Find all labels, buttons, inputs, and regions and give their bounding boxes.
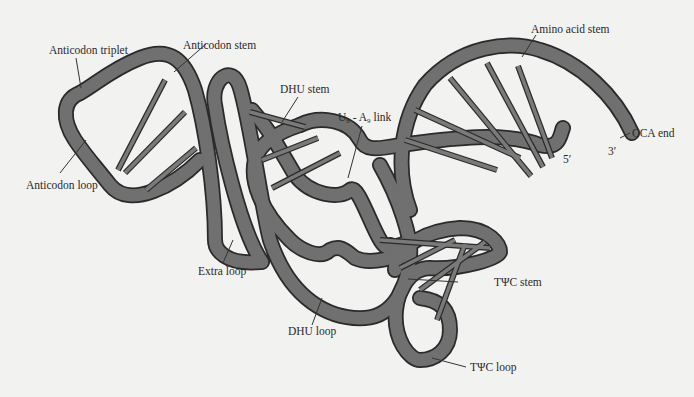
label-anticodon-loop: Anticodon loop [26, 180, 98, 192]
label-five-prime: 5′ [563, 154, 571, 166]
label-three-prime: 3′ [608, 146, 616, 158]
link-text: link [371, 111, 392, 123]
label-tpsic-loop: TΨC loop [470, 362, 517, 374]
label-cca-end: CCA end [632, 128, 675, 140]
label-amino-acid-stem: Amino acid stem [531, 24, 610, 36]
label-dhu-loop: DHU loop [288, 326, 336, 338]
label-anticodon-stem: Anticodon stem [183, 40, 256, 52]
label-u8-a9-link: U8 - A9 link [338, 112, 391, 125]
trna-diagram [0, 0, 694, 397]
label-dhu-stem: DHU stem [280, 84, 330, 96]
backbone [66, 46, 632, 360]
label-extra-loop: Extra loop [198, 266, 246, 278]
label-tpsic-stem: TΨC stem [494, 277, 542, 289]
a9-letter: - A [350, 111, 367, 123]
label-anticodon-triplet: Anticodon triplet [49, 45, 128, 57]
